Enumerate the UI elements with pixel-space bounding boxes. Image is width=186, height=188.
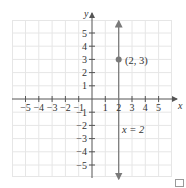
corner-checkbox-icon xyxy=(175,179,184,187)
y-tick-label: 4 xyxy=(82,41,87,52)
x-tick-label: −4 xyxy=(33,102,44,113)
y-tick-label: −1 xyxy=(76,107,87,118)
x-tick-label: −5 xyxy=(20,102,31,113)
y-tick-label: −5 xyxy=(76,160,87,171)
x-tick-label: 4 xyxy=(143,102,148,113)
x-axis-label: x xyxy=(177,100,183,111)
y-tick-label: 5 xyxy=(82,28,87,39)
x-tick-label: −3 xyxy=(47,102,58,113)
x-tick-label: 3 xyxy=(130,102,135,113)
coordinate-plane: y x −5 −4 −3 −2 −1 1 2 3 4 5 5 4 3 2 1 −… xyxy=(0,0,186,188)
y-axis-label: y xyxy=(83,8,89,19)
line-label: x = 2 xyxy=(121,124,145,135)
point-2-3 xyxy=(116,56,122,62)
y-tick-label: 1 xyxy=(82,80,87,91)
point-label: (2, 3) xyxy=(125,55,148,67)
y-tick-label: −2 xyxy=(76,120,87,131)
x-tick-label: 2 xyxy=(116,102,121,113)
x-tick-label: −2 xyxy=(60,102,71,113)
y-tick-label: −3 xyxy=(76,133,87,144)
y-tick-label: −4 xyxy=(76,146,87,157)
x-tick-label: 1 xyxy=(103,102,108,113)
y-tick-label: 3 xyxy=(82,54,87,65)
x-tick-label: 5 xyxy=(156,102,161,113)
y-tick-label: 2 xyxy=(82,67,87,78)
